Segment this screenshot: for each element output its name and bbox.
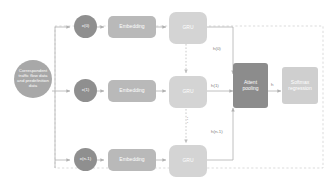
gru-node-1[interactable]: GRU	[169, 76, 207, 108]
embedding-node-2-label: Embedding	[119, 157, 144, 163]
embedding-node-0-label: Embedding	[119, 24, 144, 30]
input-data-node[interactable]: Correspondent traffic flow data and pred…	[14, 60, 52, 98]
hidden-state-label-2: h(n-1)	[211, 130, 223, 134]
x-node-1-label: x(1)	[82, 88, 90, 93]
vertical-ellipsis-icon: ⋮	[184, 116, 191, 123]
embedding-node-1[interactable]: Embedding	[108, 80, 156, 102]
x-node-1[interactable]: x(1)	[74, 79, 97, 102]
hidden-state-label-1: h(1)	[211, 84, 219, 88]
attention-pooling-label-line2: pooling	[242, 86, 258, 92]
embedding-node-2[interactable]: Embedding	[108, 149, 156, 171]
softmax-regression-label-line2: regression	[288, 86, 311, 92]
hidden-state-label-0: h(0)	[213, 47, 221, 51]
gru-node-0-label: GRU	[182, 25, 193, 31]
diagram-canvas: Correspondent traffic flow data and pred…	[0, 0, 330, 182]
x-node-2-label: x(n-1)	[80, 157, 91, 162]
x-node-2[interactable]: x(n-1)	[74, 148, 97, 171]
gru-node-2-label: GRU	[182, 158, 193, 164]
x-node-0-label: x(0)	[82, 24, 90, 29]
x-node-0[interactable]: x(0)	[74, 15, 97, 38]
gru-node-2[interactable]: GRU	[169, 145, 207, 177]
gru-node-0[interactable]: GRU	[169, 12, 207, 44]
pooled-output-label: h	[271, 83, 273, 87]
embedding-node-0[interactable]: Embedding	[108, 16, 156, 38]
embedding-node-1-label: Embedding	[119, 88, 144, 94]
diagram-connectors-layer	[0, 0, 330, 182]
softmax-regression-node[interactable]: Softmax regression	[282, 67, 318, 104]
attention-pooling-node[interactable]: Attent pooling	[233, 63, 268, 108]
gru-node-1-label: GRU	[182, 89, 193, 95]
connector-input-to-rows	[52, 27, 70, 168]
input-data-label: Correspondent traffic flow data and pred…	[17, 69, 49, 88]
